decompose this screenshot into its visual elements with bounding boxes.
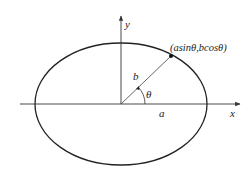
theta-label: θ bbox=[146, 88, 152, 100]
a-label: a bbox=[159, 107, 165, 119]
point-label: (asinθ,bcosθ) bbox=[170, 42, 227, 54]
point-marker bbox=[169, 54, 173, 58]
b-label: b bbox=[133, 70, 139, 82]
x-axis-label: x bbox=[229, 107, 235, 119]
y-axis-label: y bbox=[124, 18, 130, 30]
ellipse-diagram: y x b a θ (asinθ,bcosθ) bbox=[0, 0, 252, 173]
